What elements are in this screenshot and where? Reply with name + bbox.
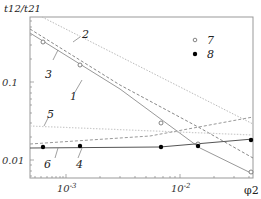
curve-2 <box>42 17 253 124</box>
x-tick-1e-2: 10-2 <box>171 182 191 194</box>
legend-8-marker <box>193 52 197 56</box>
legend-7-label: 7 <box>207 34 214 47</box>
x-axis-title: φ2 <box>244 184 259 197</box>
y-axis-title: t12/t21 <box>4 3 41 14</box>
y-ticks <box>30 21 34 176</box>
curve-label-6: 6 <box>44 158 51 171</box>
chart: 2 3 1 5 6 4 7 8 0.1 0.01 10-3 10-2 t12/t… <box>0 0 261 199</box>
curve-label-3: 3 <box>45 68 52 81</box>
y-tick-0.1: 0.1 <box>2 77 18 88</box>
y-tick-0.01: 0.01 <box>2 155 24 166</box>
curve-label-2: 2 <box>81 28 89 41</box>
x-ticks <box>35 174 249 178</box>
legend-8-label: 8 <box>207 48 214 61</box>
curve-label-5: 5 <box>47 108 54 121</box>
curve-5 <box>30 126 253 135</box>
x-tick-1e-3: 10-3 <box>57 182 77 194</box>
curve-4 <box>30 139 253 148</box>
curve-label-1: 1 <box>70 90 77 103</box>
curve-label-4: 4 <box>75 158 83 171</box>
curve-3 <box>30 29 253 158</box>
plot-frame <box>30 17 253 178</box>
legend-7-marker <box>193 38 197 42</box>
curve-1 <box>30 33 253 174</box>
